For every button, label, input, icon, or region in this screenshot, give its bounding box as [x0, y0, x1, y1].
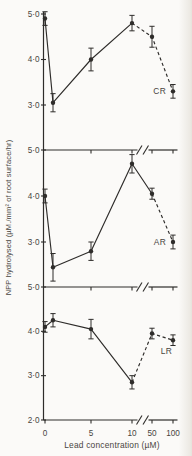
panel-AR: 5·04·03·0AR	[28, 146, 176, 281]
data-point	[171, 89, 175, 93]
data-point	[89, 327, 93, 331]
data-point	[171, 338, 175, 342]
panel-CR: 5·04·03·0CR	[28, 10, 176, 112]
series-line-solid	[45, 19, 132, 103]
panel-label: AR	[154, 237, 166, 247]
series-line-dashed	[152, 194, 173, 242]
data-point	[43, 194, 47, 198]
data-point	[171, 240, 175, 244]
y-tick-label: 5·0	[28, 10, 40, 19]
chart-canvas: 0510501005·04·03·0CR5·04·03·0AR5·04·03·0…	[0, 0, 192, 456]
data-point	[51, 265, 55, 269]
y-tick-label: 4·0	[28, 55, 40, 64]
x-tick-label: 10	[127, 429, 137, 438]
x-axis-label: Lead concentration (µM)	[32, 440, 192, 450]
axis-break-icon	[143, 283, 149, 292]
y-tick-label: 3·0	[28, 101, 40, 110]
x-tick-label: 50	[147, 429, 157, 438]
data-point	[89, 249, 93, 253]
panel-label: CR	[153, 86, 166, 96]
figure-three-panel-line-chart: 0510501005·04·03·0CR5·04·03·0AR5·04·03·0…	[0, 0, 192, 456]
data-point	[51, 318, 55, 322]
data-point	[43, 16, 47, 20]
data-point	[51, 101, 55, 105]
y-tick-label: 2·0	[28, 416, 40, 425]
axis-break-icon	[143, 416, 149, 425]
panel-LR: 5·04·03·02·0LR	[28, 283, 176, 425]
y-tick-label: 5·0	[28, 146, 40, 155]
x-tick-label: 0	[43, 429, 48, 438]
series-line-dashed	[132, 334, 173, 383]
x-tick-label: 100	[166, 429, 180, 438]
y-tick-label: 3·0	[28, 371, 40, 380]
data-point	[89, 57, 93, 61]
panel-label: LR	[161, 346, 172, 356]
y-tick-label: 5·0	[28, 283, 40, 292]
data-point	[130, 21, 134, 25]
data-point	[150, 35, 154, 39]
y-tick-label: 4·0	[28, 192, 40, 201]
x-tick-label: 5	[89, 429, 94, 438]
axis-break-icon	[143, 146, 149, 155]
series-line-solid	[45, 164, 152, 267]
data-point	[43, 325, 47, 329]
data-point	[150, 192, 154, 196]
y-tick-label: 3·0	[28, 238, 40, 247]
data-point	[150, 331, 154, 335]
series-line-solid	[45, 320, 132, 382]
data-point	[130, 162, 134, 166]
y-tick-label: 4·0	[28, 327, 40, 336]
data-point	[130, 380, 134, 384]
y-axis-label: NPP hydrolysed (µM./mm² of root surface/…	[4, 68, 15, 368]
